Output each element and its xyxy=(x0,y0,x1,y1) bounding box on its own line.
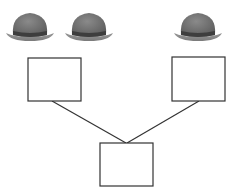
box-bottom[interactable] xyxy=(100,143,153,186)
connector-left xyxy=(52,101,126,143)
box-left[interactable] xyxy=(28,58,81,101)
box-right[interactable] xyxy=(172,57,225,101)
bowler-hat-icon xyxy=(174,13,222,41)
connector-right xyxy=(127,101,199,143)
bowler-hat-icon xyxy=(65,13,113,41)
diagram-canvas xyxy=(0,0,245,193)
bowler-hat-icon xyxy=(6,13,54,41)
